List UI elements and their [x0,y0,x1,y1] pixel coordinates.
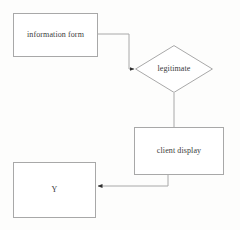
node-information-form[interactable]: information form [13,13,98,57]
node-legitimate-label-wrap: legitimate [135,45,213,93]
node-y-label: Y [52,186,58,195]
node-client-display[interactable]: client display [134,127,224,175]
node-y[interactable]: Y [13,162,96,218]
flowchart-canvas: information form legitimate client displ… [0,0,240,230]
node-legitimate[interactable]: legitimate [135,45,213,93]
node-client-display-label: client display [157,147,201,156]
node-legitimate-label: legitimate [158,65,191,74]
edge-information-form-to-legitimate [98,34,134,69]
node-information-form-label: information form [27,31,84,40]
edge-client-display-to-y [98,175,168,186]
